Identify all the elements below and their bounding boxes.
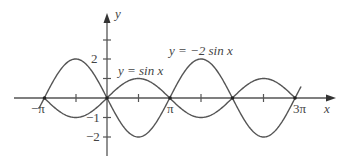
x-tick-label-pi: π: [167, 101, 174, 116]
x-tick-label-neg-pi: −π: [31, 101, 45, 116]
annotation-neg2-sin-x: y = −2 sin x: [167, 43, 233, 58]
y-tick-label-neg1: −1: [86, 110, 100, 125]
y-tick-label-neg2: −2: [86, 129, 100, 144]
y-axis-label: y: [113, 6, 121, 21]
x-axis-label: x: [323, 101, 330, 116]
annotation-sin-x: y = sin x: [116, 63, 163, 78]
x-tick-label-3pi: 3π: [293, 101, 307, 116]
y-axis-arrow-icon: [104, 13, 111, 23]
y-tick-label-2: 2: [91, 51, 98, 66]
chart: y x −π π 3π 2 −1 −2 y = sin x y = −2 sin…: [0, 0, 346, 165]
